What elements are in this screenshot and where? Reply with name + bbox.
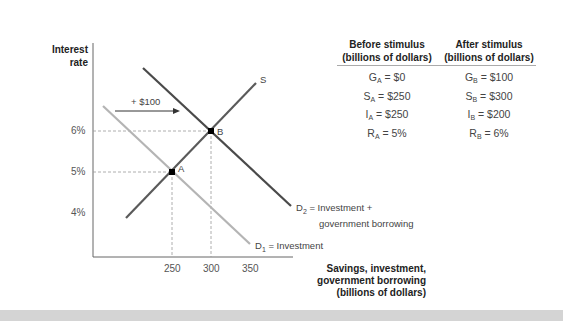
after-row-s: SB = $300 — [439, 89, 539, 108]
point-a-label: A — [178, 163, 184, 174]
after-header: After stimulus (billions of dollars) — [439, 38, 539, 64]
before-row-i: IA = $250 — [337, 107, 437, 126]
after-stimulus-column: After stimulus (billions of dollars) GB … — [439, 38, 539, 144]
after-row-r: RB = 6% — [439, 126, 539, 145]
bottom-bar — [0, 310, 563, 321]
d2-investment-borrowing-curve — [143, 68, 291, 206]
x-axis-label: Savings, investment, government borrowin… — [300, 263, 426, 299]
before-row-g: GA = $0 — [337, 70, 437, 89]
d1-label: D1 = Investment — [255, 240, 323, 253]
d2-label: D2 = Investment + government borrowing — [296, 202, 414, 230]
shift-arrowhead — [173, 108, 180, 114]
table-divider — [337, 65, 536, 66]
before-row-s: SA = $250 — [337, 89, 437, 108]
s-curve-label: S — [260, 74, 266, 85]
after-row-i: IB = $200 — [439, 107, 539, 126]
shift-label: + $100 — [131, 96, 160, 107]
x-tick-300: 300 — [203, 263, 220, 274]
before-row-r: RA = 5% — [337, 126, 437, 145]
d1-investment-curve — [103, 106, 250, 244]
before-stimulus-column: Before stimulus (billions of dollars) GA… — [337, 38, 437, 144]
x-tick-350: 350 — [242, 263, 259, 274]
point-b — [208, 128, 214, 134]
point-b-label: B — [217, 126, 223, 137]
point-a — [169, 169, 175, 175]
x-tick-250: 250 — [164, 263, 181, 274]
y-tick-6: 6% — [71, 125, 85, 136]
y-tick-4: 4% — [71, 207, 85, 218]
after-row-g: GB = $100 — [439, 70, 539, 89]
y-tick-5: 5% — [71, 166, 85, 177]
before-header: Before stimulus (billions of dollars) — [337, 38, 437, 64]
y-axis-label: Interest rate — [44, 43, 88, 69]
